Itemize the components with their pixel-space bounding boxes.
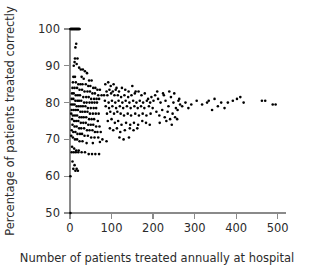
data-point [75,42,78,45]
data-point [86,111,89,114]
data-point [129,123,132,126]
data-point [87,134,90,137]
data-point [106,112,109,115]
data-point [81,83,84,86]
axes-group [70,29,286,213]
data-point [110,118,113,121]
data-point [148,105,151,108]
data-point [223,107,226,110]
data-point [119,112,122,115]
data-point [123,94,126,97]
data-point [108,107,111,110]
y-tick-label: 50 [45,206,60,220]
data-point [92,123,95,126]
data-point [112,83,115,86]
data-point [69,175,72,178]
data-point [72,81,75,84]
data-point [173,92,176,95]
data-point [120,96,123,99]
data-point [97,120,100,123]
data-point [158,114,161,117]
data-point [236,98,239,101]
data-point [143,107,146,110]
data-point [135,101,138,104]
data-point [73,61,76,64]
data-point [110,92,113,95]
data-point [184,101,187,104]
data-point [85,96,88,99]
data-point [133,122,136,125]
data-point [122,138,125,141]
data-point [87,96,90,99]
data-point [118,136,121,139]
data-point [121,101,124,104]
data-point [97,136,100,139]
data-point [84,83,87,86]
data-point [94,131,97,134]
data-point [71,118,74,121]
scatter-plot-canvas: 5060708090100 0100200300400500 Number of… [0,0,309,274]
data-point [264,99,267,102]
data-point [84,122,87,125]
data-point [82,116,85,119]
data-point [145,114,148,117]
data-point [113,112,116,115]
data-point [97,94,100,97]
data-point [69,212,72,215]
data-point [163,94,166,97]
y-axis-ticks: 5060708090100 [38,22,70,220]
data-point [80,76,83,79]
data-point [178,98,181,101]
data-point [132,99,135,102]
data-point [88,101,91,104]
data-point [94,87,97,90]
data-point [87,107,90,110]
data-point [101,138,104,141]
data-point [76,57,79,60]
data-point [89,90,92,93]
data-point [88,129,91,132]
data-point [74,131,77,134]
data-point [82,68,85,71]
data-point [114,122,117,125]
data-point [93,98,96,101]
data-point [118,90,121,93]
data-point [98,98,101,101]
data-point [239,96,242,99]
data-point [80,122,83,125]
data-point [126,112,129,115]
data-point [104,105,107,108]
data-point [73,164,76,167]
data-point [71,123,74,126]
data-point [176,109,179,112]
data-point [91,92,94,95]
data-point [107,101,110,104]
y-tick-label: 70 [45,132,60,146]
data-point [81,111,84,114]
data-point [137,123,140,126]
data-point [92,142,95,145]
data-point [114,88,117,91]
data-point [77,28,80,31]
data-point [136,127,139,130]
data-point [83,90,86,93]
data-point [111,105,114,108]
data-point [77,169,80,172]
data-point [154,94,157,97]
data-points-group [69,28,277,215]
data-point [140,94,143,97]
data-point [99,141,102,144]
data-point [97,112,100,115]
data-point [80,151,83,154]
funnel-plot-figure: 5060708090100 0100200300400500 Number of… [0,0,309,274]
data-point [134,112,137,115]
data-point [114,101,117,104]
data-point [127,96,130,99]
data-point [116,94,119,97]
data-point [103,94,106,97]
data-point [116,127,119,130]
x-tick-label: 200 [142,221,164,235]
data-point [74,57,77,60]
data-point [141,120,144,123]
y-tick-label: 90 [45,59,60,73]
